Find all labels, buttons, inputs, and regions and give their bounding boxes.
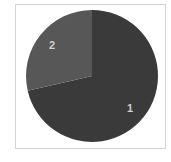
pie-slices bbox=[26, 10, 158, 142]
slice-label-1: 1 bbox=[127, 102, 133, 114]
slice-label-2: 2 bbox=[49, 39, 55, 51]
pie-chart: 1 2 bbox=[0, 0, 171, 162]
